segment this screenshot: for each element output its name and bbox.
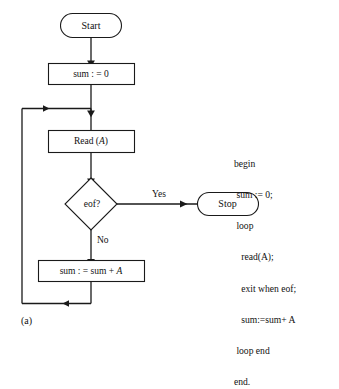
pseudocode-block: begin sum := 0; loop read(A); exit when … — [234, 138, 296, 389]
pseudocode-line: sum:=sum+ A — [234, 315, 296, 325]
pseudocode-line: exit when eof; — [234, 284, 296, 294]
read-label-prefix: Read ( — [74, 136, 99, 146]
figure-caption: (a) — [21, 316, 32, 326]
yes-branch-label: Yes — [152, 190, 166, 200]
loopback-left-arrowhead — [63, 300, 70, 307]
no-branch-label: No — [97, 236, 109, 246]
accumulate-node-label: sum : = sum + A — [38, 267, 144, 277]
pseudocode-line: begin — [234, 159, 296, 169]
yes-branch-arrowhead — [180, 201, 188, 208]
pseudocode-line: end. — [234, 377, 296, 387]
init-node-label: sum : = 0 — [48, 70, 134, 80]
accumulate-label-prefix: sum : = sum + — [60, 266, 117, 276]
pseudocode-line: loop end — [234, 346, 296, 356]
read-node-label: Read (A) — [48, 137, 134, 147]
read-label-suffix: ) — [105, 136, 108, 146]
accumulate-label-variable: A — [117, 266, 123, 276]
loopback-join-arrowhead — [43, 105, 50, 112]
pseudocode-line: loop — [234, 221, 296, 231]
start-node-label: Start — [60, 21, 122, 31]
pseudocode-line: sum := 0; — [234, 190, 296, 200]
decision-node-label: eof? — [66, 200, 118, 210]
pseudocode-line: read(A); — [234, 252, 296, 262]
